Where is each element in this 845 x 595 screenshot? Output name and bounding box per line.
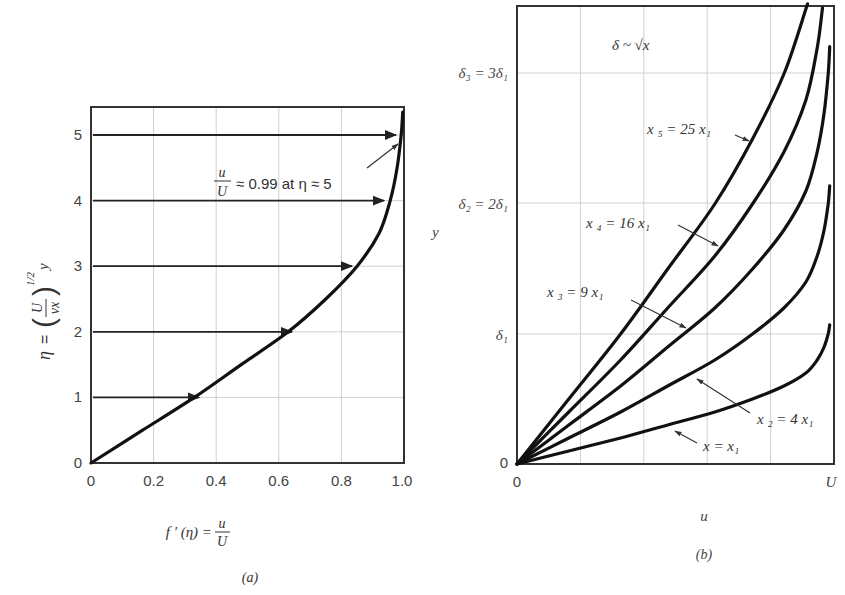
svg-text:δ₂ = 2δ₁: δ₂ = 2δ₁ [459, 196, 509, 212]
panel-a: u U ≈ 0.99 at η ≈ 5 0 1 2 3 4 5 0 0.2 0.… [24, 107, 412, 586]
svg-text:5: 5 [74, 126, 82, 143]
svg-text:f ′ (η) =: f ′ (η) = [166, 524, 212, 541]
y-ticks-a: 0 1 2 3 4 5 [74, 126, 82, 471]
label-x4: x ₄ = 16 x₁ [585, 215, 650, 231]
caption-a: (a) [242, 570, 259, 586]
x-ticks-a: 0 0.2 0.4 0.6 0.8 1.0 [87, 472, 413, 489]
delta-note: δ ~ √x [612, 37, 650, 53]
svg-text:1: 1 [74, 388, 82, 405]
svg-text:U: U [217, 534, 228, 549]
svg-text:U: U [30, 302, 45, 313]
label-x2: x ₂ = 4 x₁ [756, 411, 813, 427]
plot-frame-a [91, 107, 404, 463]
svg-text:η: η [34, 351, 54, 360]
y-ticks-b: δ₃ = 3δ₁ δ₂ = 2δ₁ δ₁ 0 [459, 65, 509, 471]
y-axis-label-b: y [430, 224, 439, 240]
svg-text:0: 0 [500, 454, 508, 471]
annotation-U: U [217, 184, 228, 199]
svg-text:): ) [27, 286, 60, 296]
svg-text:4: 4 [74, 192, 82, 209]
svg-text:2: 2 [74, 323, 82, 340]
caption-b: (b) [696, 547, 713, 563]
label-x5: x ₅ = 25 x₁ [646, 121, 711, 137]
svg-text:3: 3 [74, 257, 82, 274]
svg-text:(: ( [27, 318, 60, 328]
annotation-a: u U ≈ 0.99 at η ≈ 5 [214, 165, 332, 199]
figure: u U ≈ 0.99 at η ≈ 5 0 1 2 3 4 5 0 0.2 0.… [0, 0, 845, 595]
profile-x3 [517, 47, 830, 464]
grid-a [91, 107, 404, 463]
annotation-u: u [219, 165, 226, 180]
x-axis-label-b: u [700, 508, 708, 524]
svg-text:y: y [35, 263, 51, 272]
panel-b: x ₅ = 25 x₁ x ₄ = 16 x₁ x ₃ = 9 x₁ x ₂ =… [430, 4, 838, 563]
svg-text:0: 0 [87, 472, 95, 489]
blasius-curve [91, 112, 403, 463]
annotation-leader-a [367, 144, 398, 168]
profile-x1 [517, 325, 830, 464]
label-x1: x = x₁ [702, 438, 739, 454]
profile-x4 [517, 8, 823, 464]
svg-text:0.4: 0.4 [206, 472, 227, 489]
svg-text:0.2: 0.2 [143, 472, 164, 489]
svg-text:νx: νx [47, 301, 62, 314]
svg-text:1/2: 1/2 [24, 271, 36, 286]
svg-text:u: u [219, 516, 226, 531]
x-tick-U-b: U [826, 474, 838, 490]
svg-text:0.6: 0.6 [268, 472, 289, 489]
svg-text:0: 0 [74, 454, 82, 471]
x-axis-label-a: f ′ (η) = u U [166, 516, 230, 549]
x-tick-0-b: 0 [513, 473, 521, 490]
plot-frame-b [517, 6, 834, 464]
svg-text:δ₃ = 3δ₁: δ₃ = 3δ₁ [459, 65, 509, 81]
svg-text:1.0: 1.0 [392, 472, 413, 489]
svg-text:0.8: 0.8 [331, 472, 352, 489]
svg-text:=: = [36, 335, 53, 344]
grid-b [517, 6, 834, 464]
annotation-text: ≈ 0.99 at η ≈ 5 [236, 175, 332, 192]
label-x3: x ₃ = 9 x₁ [546, 284, 603, 300]
svg-text:δ₁: δ₁ [496, 327, 508, 343]
y-axis-label-a: η = ( U νx ) 1/2 y [24, 263, 62, 360]
